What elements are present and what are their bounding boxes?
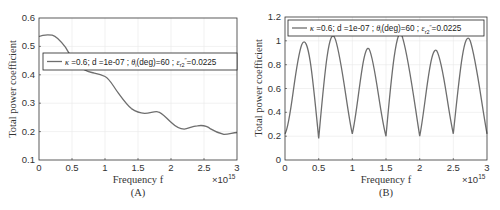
svg-text:0.2: 0.2 [268, 130, 281, 141]
panel-label-a: (A) [131, 187, 146, 199]
svg-text:1.5: 1.5 [131, 162, 144, 173]
svg-text:2.5: 2.5 [197, 162, 210, 173]
svg-text:2.5: 2.5 [447, 162, 460, 173]
legend-b: κ =0.6; d =1e-07 ; θi(deg)=60 ; εr2′′=0.… [288, 20, 484, 36]
x-axis-label-a: Frequency f [113, 174, 164, 185]
svg-text:2: 2 [417, 162, 422, 173]
svg-text:1: 1 [350, 162, 355, 173]
svg-text:0.5: 0.5 [22, 40, 35, 51]
svg-text:3: 3 [484, 162, 489, 173]
figure: 0 0.5 1 1.5 2 2.5 3 0.1 0.2 0.3 0.4 0.5 … [0, 0, 500, 210]
svg-text:0: 0 [282, 162, 287, 173]
x-axis-label-b: Frequency f [361, 174, 412, 185]
svg-text:1.5: 1.5 [379, 162, 392, 173]
svg-text:1: 1 [102, 162, 107, 173]
svg-text:0.1: 0.1 [22, 154, 35, 165]
svg-text:2: 2 [168, 162, 173, 173]
x-multiplier-a: ×1015 [212, 173, 236, 185]
panel-label-b: (B) [379, 187, 394, 199]
svg-text:0: 0 [36, 162, 41, 173]
svg-text:1: 1 [276, 35, 281, 46]
svg-text:0.5: 0.5 [65, 162, 78, 173]
legend-a: κ =0.6; d =1e-07 ; θi(deg)=60 ; εr2′′=0.… [43, 53, 237, 70]
svg-text:0.5: 0.5 [312, 162, 325, 173]
svg-text:3: 3 [234, 162, 239, 173]
y-axis-label-a: Total power coefficient [7, 40, 18, 138]
svg-text:0: 0 [276, 154, 281, 165]
svg-text:0.2: 0.2 [22, 126, 35, 137]
grid-a [39, 18, 237, 160]
svg-text:0.4: 0.4 [22, 69, 35, 80]
svg-text:0.6: 0.6 [268, 83, 281, 94]
svg-text:0.6: 0.6 [22, 12, 35, 23]
panel-b: 0 0.5 1 1.5 2 2.5 3 0 0.2 0.4 0.6 0.8 1 … [253, 11, 490, 199]
grid-b [285, 17, 487, 160]
legend-text-a: κ =0.6; d =1e-07 ; θi(deg)=60 ; εr2′′=0.… [65, 57, 217, 68]
x-tick-labels-b: 0 0.5 1 1.5 2 2.5 3 [282, 162, 489, 173]
y-tick-labels-b: 0 0.2 0.4 0.6 0.8 1 1.2 [268, 11, 281, 165]
panel-a: 0 0.5 1 1.5 2 2.5 3 0.1 0.2 0.3 0.4 0.5 … [7, 12, 240, 199]
y-axis-label-b: Total power coefficient [253, 39, 264, 137]
legend-text-b: κ =0.6; d =1e-07 ; θi(deg)=60 ; εr2′′=0.… [310, 24, 462, 35]
x-multiplier-b: ×1015 [462, 173, 486, 185]
svg-text:0.4: 0.4 [268, 106, 281, 117]
y-tick-labels-a: 0.1 0.2 0.3 0.4 0.5 0.6 [22, 12, 35, 165]
svg-text:0.8: 0.8 [268, 59, 281, 70]
x-tick-labels-a: 0 0.5 1 1.5 2 2.5 3 [36, 162, 239, 173]
svg-text:1.2: 1.2 [268, 11, 281, 22]
svg-text:0.3: 0.3 [22, 97, 35, 108]
